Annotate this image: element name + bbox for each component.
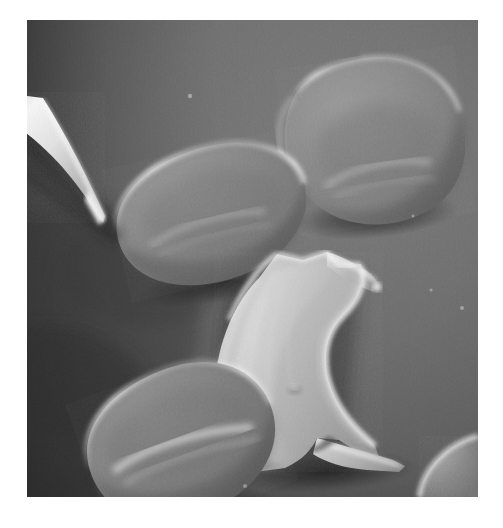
- film-grain-overlay: [27, 20, 478, 497]
- micrograph-page: human red blood cells with one sickled e…: [0, 0, 503, 528]
- micrograph-canvas: [27, 20, 478, 497]
- micrograph-plate: [27, 20, 478, 497]
